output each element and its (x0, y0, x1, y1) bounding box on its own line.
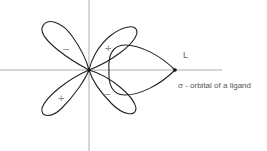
ligand-atom-dot (173, 68, 177, 72)
lobe-upper-right (89, 27, 137, 70)
ligand-orbital-caption: σ - orbital of a ligand (178, 81, 251, 90)
sign-lower-right: – (104, 87, 111, 99)
sign-upper-right: + (105, 42, 111, 54)
lobe-lower-left (42, 70, 89, 116)
orbital-diagram: – + + – L σ - orbital of a ligand (0, 0, 267, 151)
ligand-label: L (183, 50, 188, 60)
metal-center-dot (87, 68, 90, 71)
sign-upper-left: – (63, 42, 70, 54)
lobe-lower-right (89, 70, 136, 114)
sign-lower-left: + (58, 92, 64, 104)
